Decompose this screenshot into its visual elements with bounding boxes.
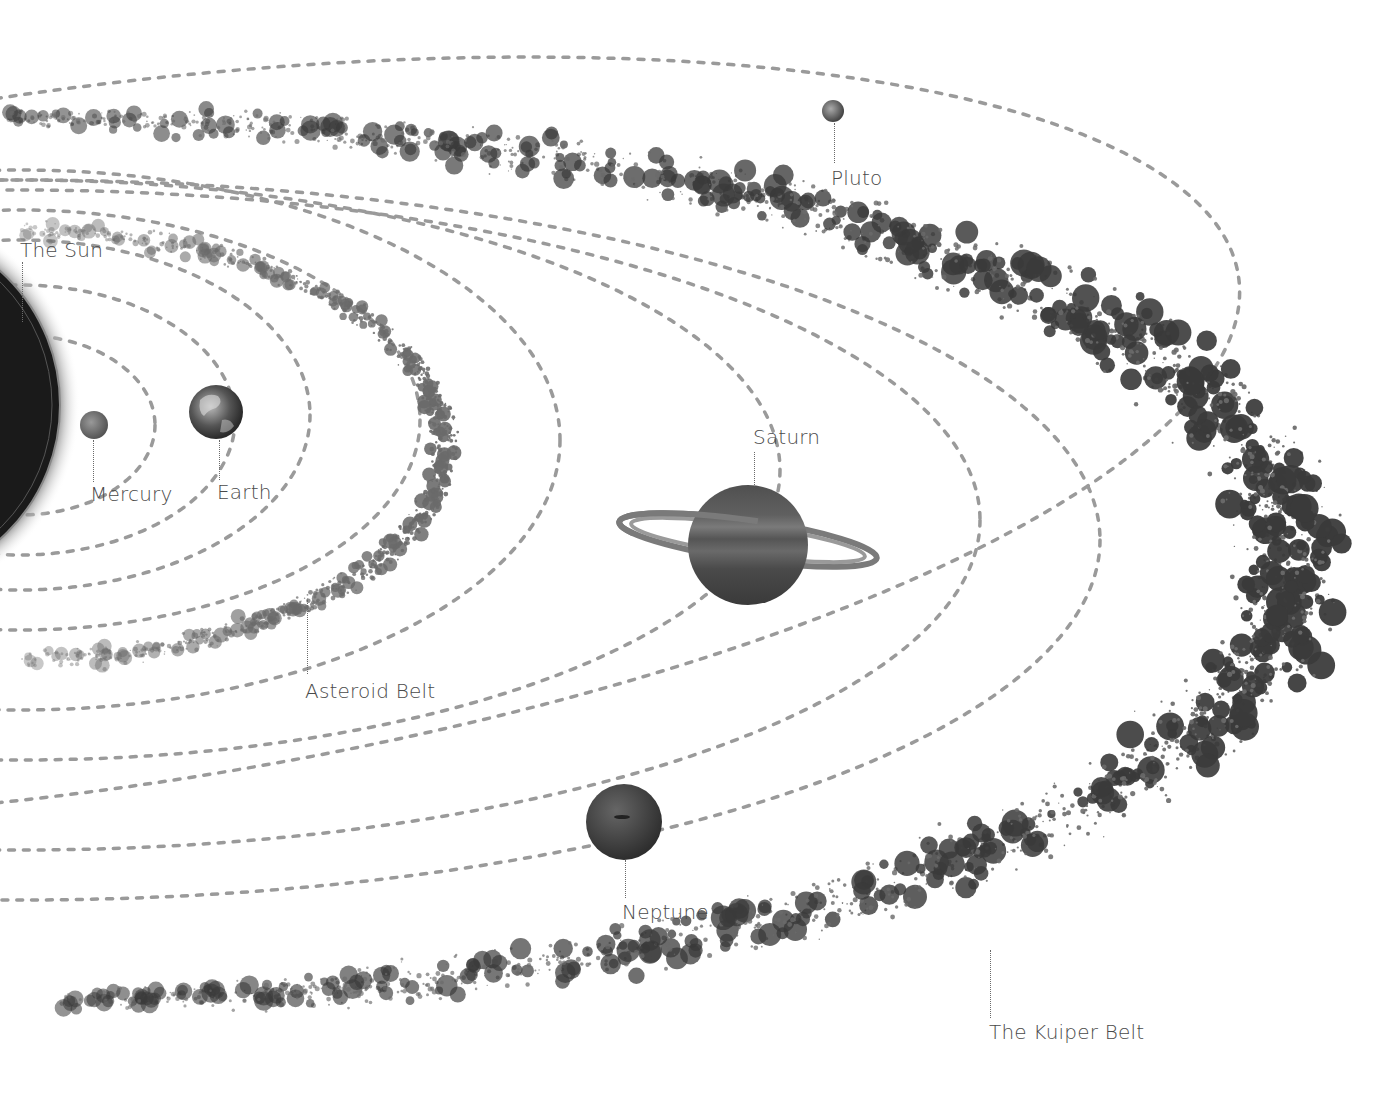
- solar-system-diagram: [0, 0, 1383, 1119]
- saturn-label: Saturn: [753, 425, 820, 449]
- belts: [2, 101, 1352, 1017]
- kuiper-belt-leader-line: [990, 950, 991, 1018]
- earth-planet: [189, 385, 243, 439]
- saturn-leader-line: [754, 452, 755, 485]
- neptune-leader-line: [625, 860, 626, 898]
- neptune-planet: [586, 784, 662, 860]
- asteroid-belt-label: Asteroid Belt: [305, 679, 435, 703]
- mercury-planet: [80, 411, 108, 439]
- neptune-orbit: [0, 180, 1100, 900]
- saturn-planet: [616, 485, 879, 605]
- pluto-planet: [822, 100, 844, 122]
- uranus-orbit: [0, 190, 980, 850]
- sun: [0, 205, 80, 605]
- kuiper-belt-label: The Kuiper Belt: [989, 1020, 1144, 1044]
- sun-leader-line: [22, 262, 23, 322]
- pluto-leader-line: [834, 123, 835, 163]
- mercury-label: Mercury: [90, 482, 172, 506]
- saturn-orbit: [0, 180, 780, 760]
- pluto-label: Pluto: [831, 166, 882, 190]
- asteroid-belt-leader-line: [307, 600, 308, 674]
- earth-leader-line: [219, 440, 220, 480]
- earth-label: Earth: [217, 480, 272, 504]
- mercury-leader-line: [93, 440, 94, 482]
- neptune-label: Neptune: [622, 900, 709, 924]
- sun-label: The Sun: [20, 238, 103, 262]
